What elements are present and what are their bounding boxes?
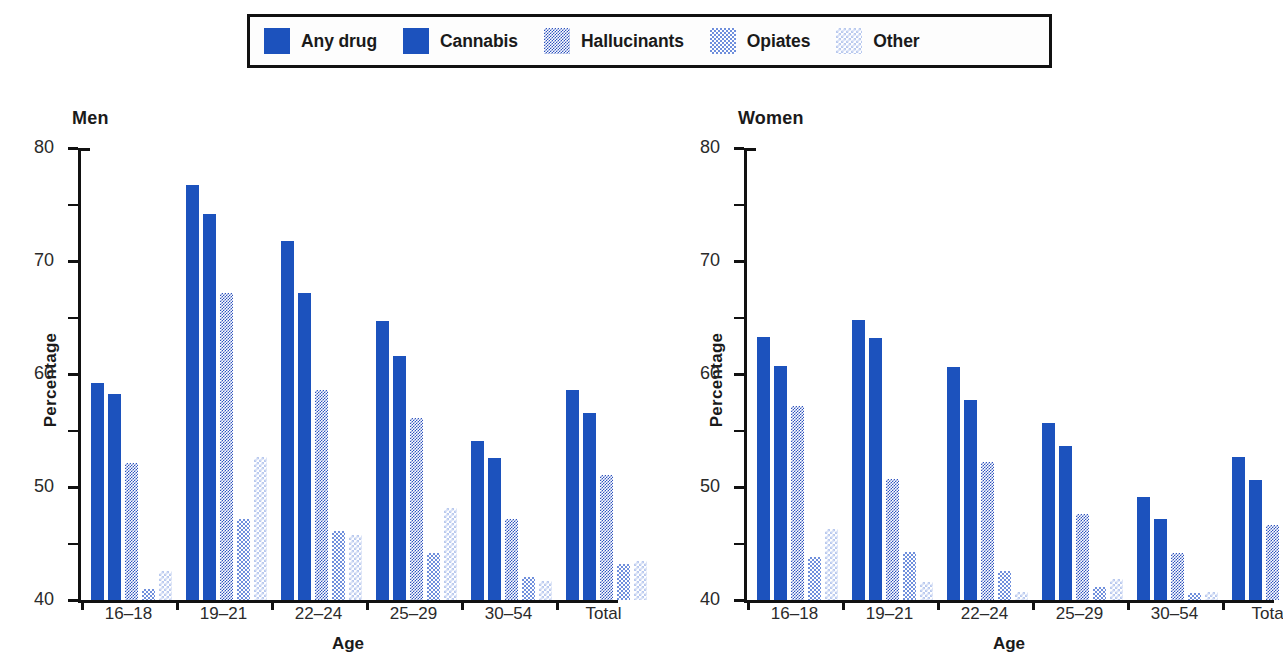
panel-title-men: Men [72, 108, 109, 129]
bar [808, 557, 821, 600]
y-axis-tick: 0 [734, 599, 744, 602]
bar-group: 16–18 [747, 148, 842, 600]
y-axis-tick: 70 [68, 204, 78, 207]
bar [125, 463, 138, 600]
chart-panel-men: Men Percentage 16–1819–2122–2425–2930–54… [0, 100, 640, 660]
bar [393, 356, 406, 600]
pale-blue-dither-swatch [836, 28, 862, 54]
bar [427, 553, 440, 600]
bar-groups-women: 16–1819–2122–2425–2930–54Total [747, 148, 1274, 600]
y-axis-tick: 70 [734, 204, 744, 207]
x-axis-tick-label: 30–54 [461, 604, 556, 624]
y-axis-tick: 60 [734, 260, 744, 263]
bar [1042, 423, 1055, 600]
y-axis-tick-label: 70 [34, 250, 54, 271]
bar [376, 321, 389, 600]
bar [471, 441, 484, 600]
bar [539, 581, 552, 600]
bar [1093, 587, 1106, 600]
bar [1059, 446, 1072, 600]
bar [757, 337, 770, 600]
legend-item: Hallucinants [544, 28, 684, 54]
x-axis-tick-label: Total [1222, 604, 1283, 624]
x-axis-title-women: Age [744, 634, 1274, 654]
bar [981, 462, 994, 600]
legend-item: Any drug [264, 28, 377, 54]
y-axis-tick-label: 40 [34, 589, 54, 610]
medium-blue-dither-swatch [544, 28, 570, 54]
x-axis-tick-label: 19–21 [842, 604, 937, 624]
y-axis-tick: 0 [68, 599, 78, 602]
y-axis-tick: 80 [734, 147, 744, 150]
bar [852, 320, 865, 600]
bar [142, 589, 155, 600]
x-axis-line [744, 600, 1274, 603]
x-axis-line [78, 600, 618, 603]
legend-item: Cannabis [403, 28, 518, 54]
x-axis-tick-label: 22–24 [937, 604, 1032, 624]
bar [774, 366, 787, 600]
bar [410, 418, 423, 600]
x-axis-title-men: Age [78, 634, 618, 654]
bar [1154, 519, 1167, 600]
bar [903, 552, 916, 600]
y-axis-tick-label: 50 [34, 476, 54, 497]
bar [886, 479, 899, 600]
solid-blue-swatch [403, 28, 429, 54]
light-blue-dither-swatch [710, 28, 736, 54]
bar [203, 214, 216, 600]
bar [566, 390, 579, 600]
bar [186, 185, 199, 600]
x-axis-tick-label: 22–24 [271, 604, 366, 624]
bar [91, 383, 104, 600]
bar [1232, 457, 1245, 600]
plot-area-women: 16–1819–2122–2425–2930–54Total 010203040… [744, 148, 1274, 600]
y-axis-tick: 10 [68, 543, 78, 546]
bar [600, 475, 613, 600]
bar [159, 571, 172, 600]
bar [522, 577, 535, 600]
x-axis-tick-label: 30–54 [1127, 604, 1222, 624]
bar [1171, 553, 1184, 600]
bar [237, 519, 250, 600]
x-axis-tick-label: 25–29 [1032, 604, 1127, 624]
bar [869, 338, 882, 600]
legend-item: Other [836, 28, 919, 54]
y-axis-tick: 50 [68, 317, 78, 320]
bar [315, 390, 328, 600]
x-axis-tick-label: 16–18 [747, 604, 842, 624]
y-axis-tick: 20 [68, 486, 78, 489]
legend-item-label: Hallucinants [581, 31, 684, 52]
bar-group: 22–24 [271, 148, 366, 600]
bar [488, 458, 501, 600]
bar [825, 529, 838, 600]
bar [1015, 592, 1028, 600]
x-axis-tick-label: 16–18 [81, 604, 176, 624]
bar [220, 293, 233, 600]
solid-blue-swatch [264, 28, 290, 54]
y-axis-tick: 50 [734, 317, 744, 320]
chart-legend: Any drugCannabisHallucinantsOpiatesOther [247, 14, 1052, 68]
bar [505, 519, 518, 600]
y-axis-tick: 20 [734, 486, 744, 489]
y-axis-tick: 30 [68, 430, 78, 433]
y-axis-tick-label: 70 [700, 250, 720, 271]
bar [1110, 579, 1123, 600]
y-axis-tick: 30 [734, 430, 744, 433]
bar [1076, 514, 1089, 600]
bar [964, 400, 977, 600]
y-axis-tick-label: 80 [34, 137, 54, 158]
y-axis-tick-label: 40 [700, 589, 720, 610]
y-axis-tick-label: 80 [700, 137, 720, 158]
bar-groups-men: 16–1819–2122–2425–2930–54Total [81, 148, 618, 600]
legend-item: Opiates [710, 28, 811, 54]
bar-group: 19–21 [842, 148, 937, 600]
bar [617, 564, 630, 600]
bar [791, 406, 804, 600]
bar-group: 30–54 [461, 148, 556, 600]
x-axis-tick-label: 25–29 [366, 604, 461, 624]
bar-group: Total [1222, 148, 1283, 600]
bar [332, 531, 345, 600]
y-axis-tick: 40 [68, 373, 78, 376]
plot-area-men: 16–1819–2122–2425–2930–54Total 010203040… [78, 148, 618, 600]
